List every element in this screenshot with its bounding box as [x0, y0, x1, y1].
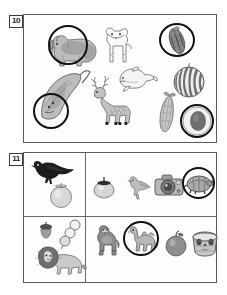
- panel-number-11: 11: [9, 153, 23, 166]
- item-acorn: [38, 222, 54, 240]
- item-camel: [124, 222, 160, 258]
- item-patterned-basket: [190, 228, 220, 258]
- item-small-bird: [122, 174, 152, 200]
- item-dog: [99, 25, 139, 67]
- item-apple: [163, 230, 189, 258]
- item-corn-cob: [155, 92, 179, 134]
- item-dark-round-object: [180, 104, 214, 138]
- panel-number-10: 10: [9, 15, 23, 28]
- item-lion: [32, 243, 88, 279]
- item-rhinoceros: [41, 28, 99, 68]
- item-gorilla: [92, 224, 122, 258]
- item-persimmon-top-right: [91, 175, 117, 199]
- worksheet-page: 10: [0, 0, 227, 295]
- item-dolphin: [114, 64, 158, 94]
- item-dark-corn-cob: [160, 24, 194, 58]
- item-persimmon-top-left: [47, 181, 75, 209]
- item-camera: [153, 172, 185, 198]
- item-tortoise: [183, 168, 215, 198]
- panel-11-horizontal-divider: [23, 216, 217, 217]
